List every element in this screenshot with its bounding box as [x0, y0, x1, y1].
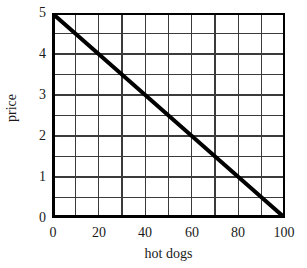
y-tick-label-4: 4	[16, 47, 46, 61]
x-axis-title: hot dogs	[52, 246, 285, 262]
chart-figure: 5 4 3 2 1 0 price	[0, 0, 307, 268]
y-tick-label-1: 1	[16, 170, 46, 184]
demand-line-series	[52, 13, 285, 218]
y-tick-label-5: 5	[16, 6, 46, 20]
plot-area	[52, 13, 285, 218]
x-tick-label-100: 100	[264, 226, 304, 240]
y-tick-label-3: 3	[16, 88, 46, 102]
x-tick-label-0: 0	[33, 226, 73, 240]
x-tick-label-80: 80	[218, 226, 258, 240]
series-polyline	[52, 13, 285, 218]
y-tick-label-0: 0	[16, 211, 46, 225]
x-tick-label-40: 40	[125, 226, 165, 240]
y-tick-label-2: 2	[16, 129, 46, 143]
x-tick-label-60: 60	[172, 226, 212, 240]
y-axis-title: price	[4, 78, 20, 138]
x-axis-tick-labels: 0 20 40 60 80 100	[52, 226, 285, 244]
x-tick-label-20: 20	[79, 226, 119, 240]
